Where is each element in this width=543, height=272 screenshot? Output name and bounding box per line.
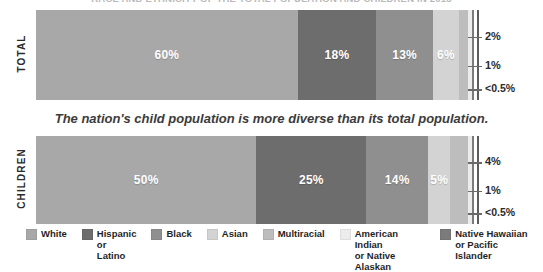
legend-label-line2: or Native Alaskan bbox=[355, 250, 426, 272]
legend-label: Black bbox=[166, 228, 191, 239]
bar-row-children: CHILDREN 50%25%14%5% 4%1%<0.5% bbox=[0, 136, 543, 224]
stacked-bar-total: 60%18%13%6% bbox=[36, 10, 474, 100]
legend-label: Asian bbox=[222, 228, 248, 239]
chart-title-strip: RACE AND ETHNICITY OF THE TOTAL POPULATI… bbox=[0, 0, 543, 7]
legend-label: Native Hawaiianor Pacific Islander bbox=[455, 228, 528, 261]
legend-label: White bbox=[41, 228, 67, 239]
legend-swatch-native-hawaiian-or-pacific-islander bbox=[440, 229, 451, 240]
bar-segment-hispanic-or-latino: 18% bbox=[298, 10, 377, 100]
legend-label: Multiracial bbox=[278, 228, 325, 239]
axis-line-children bbox=[477, 136, 479, 224]
legend-swatch-american-indian-or-native-alaskan bbox=[340, 229, 351, 240]
legend-item[interactable]: Native Hawaiianor Pacific Islander bbox=[440, 228, 528, 261]
bar-segment-white: 60% bbox=[36, 10, 298, 100]
legend-label-line2: or Pacific Islander bbox=[455, 239, 528, 261]
legend-swatch-white bbox=[26, 229, 37, 240]
axis-tick bbox=[468, 89, 482, 90]
bar-segment-multiracial bbox=[450, 136, 468, 224]
bar-row-total: TOTAL 60%18%13%6% 2%1%<0.5% bbox=[0, 10, 543, 100]
axis-tick-label: <0.5% bbox=[485, 82, 515, 94]
bar-segment-multiracial bbox=[459, 10, 468, 100]
axis-tick-label: <0.5% bbox=[485, 206, 515, 218]
legend-item[interactable]: Hispanicor Latino bbox=[82, 228, 137, 261]
legend-item[interactable]: Black bbox=[151, 228, 191, 240]
axis-tick-label: 2% bbox=[485, 30, 501, 42]
legend-item[interactable]: White bbox=[26, 228, 67, 240]
axis-tick bbox=[468, 37, 482, 38]
legend-item[interactable]: Asian bbox=[207, 228, 248, 240]
row-label-children: CHILDREN bbox=[16, 134, 27, 224]
legend-swatch-hispanic-or-latino bbox=[82, 229, 93, 240]
axis-line-total bbox=[477, 10, 479, 100]
bar-segment-value: 50% bbox=[134, 173, 159, 187]
stacked-bar-children: 50%25%14%5% bbox=[36, 136, 474, 224]
legend-label: American Indianor Native Alaskan bbox=[355, 228, 426, 272]
axis-tick bbox=[468, 213, 482, 214]
bar-segment-value: 25% bbox=[299, 173, 324, 187]
legend-label-line2: or Latino bbox=[97, 239, 137, 261]
chart-title: RACE AND ETHNICITY OF THE TOTAL POPULATI… bbox=[0, 0, 543, 4]
bar-segment-value: 5% bbox=[430, 173, 448, 187]
bar-segment-value: 13% bbox=[392, 48, 417, 62]
chart-caption: The nation's child population is more di… bbox=[0, 103, 543, 133]
legend-label: Hispanicor Latino bbox=[97, 228, 137, 261]
legend-item[interactable]: American Indianor Native Alaskan bbox=[340, 228, 426, 272]
legend-item[interactable]: Multiracial bbox=[263, 228, 325, 240]
bar-segment-native-hawaiian-or-pacific-islander bbox=[472, 136, 474, 224]
legend-swatch-multiracial bbox=[263, 229, 274, 240]
axis-tick bbox=[468, 66, 482, 67]
bar-segment-value: 18% bbox=[325, 48, 350, 62]
row-label-total: TOTAL bbox=[16, 9, 27, 99]
bar-segment-white: 50% bbox=[36, 136, 256, 224]
bar-segment-hispanic-or-latino: 25% bbox=[256, 136, 366, 224]
legend-swatch-asian bbox=[207, 229, 218, 240]
bar-segment-asian: 6% bbox=[433, 10, 459, 100]
bar-segment-native-hawaiian-or-pacific-islander bbox=[472, 10, 474, 100]
bar-segment-black: 14% bbox=[366, 136, 428, 224]
bar-segment-asian: 5% bbox=[428, 136, 450, 224]
bar-segment-value: 6% bbox=[437, 48, 455, 62]
bar-segment-black: 13% bbox=[376, 10, 433, 100]
bar-segment-value: 14% bbox=[385, 173, 410, 187]
axis-tick-label: 1% bbox=[485, 184, 501, 196]
legend-swatch-black bbox=[151, 229, 162, 240]
axis-tick bbox=[468, 191, 482, 192]
bar-segment-value: 60% bbox=[154, 48, 179, 62]
chart-legend: WhiteHispanicor LatinoBlackAsianMultirac… bbox=[0, 228, 543, 258]
axis-tick bbox=[468, 162, 482, 163]
axis-tick-label: 1% bbox=[485, 59, 501, 71]
axis-tick-label: 4% bbox=[485, 155, 501, 167]
